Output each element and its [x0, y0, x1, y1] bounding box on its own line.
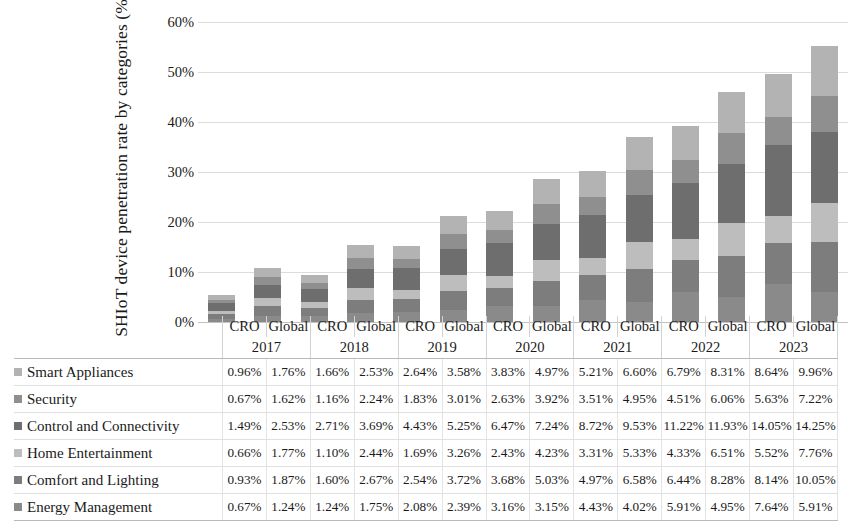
table-row: Smart Appliances0.96%1.76%1.66%2.53%2.64…: [14, 359, 838, 386]
table-cell-value: 4.33%: [662, 440, 706, 467]
stacked-bar[interactable]: [718, 92, 745, 322]
plot-area: [198, 22, 848, 322]
bar-segment: [718, 223, 745, 256]
table-cell-value: 4.97%: [530, 359, 574, 386]
y-axis-title: SHIoT device penetration rate by categor…: [86, 0, 158, 330]
table-cell-value: 4.23%: [530, 440, 574, 467]
table-cell-value: 3.16%: [486, 494, 530, 521]
legend-item[interactable]: Energy Management: [14, 494, 223, 521]
table-row: Home Entertainment0.66%1.77%1.10%2.44%1.…: [14, 440, 838, 467]
table-cell-value: 1.24%: [310, 494, 354, 521]
table-cell-value: 1.49%: [223, 413, 267, 440]
bar-segment: [393, 290, 420, 298]
table-cell-value: 0.67%: [223, 494, 267, 521]
stacked-bar[interactable]: [347, 245, 374, 322]
column-header-region: Global: [266, 316, 310, 337]
stacked-bar[interactable]: [533, 179, 560, 322]
bar-groups: [198, 22, 848, 322]
bar-segment: [486, 230, 513, 243]
table-cell-value: 1.62%: [266, 386, 310, 413]
bar-segment: [811, 96, 838, 132]
table-cell-value: 8.31%: [706, 359, 750, 386]
table-cell-value: 8.14%: [750, 467, 794, 494]
table-cell-value: 4.97%: [574, 467, 618, 494]
bar-segment: [486, 276, 513, 288]
bar-segment: [765, 74, 792, 117]
table-corner-blank-2: [14, 337, 223, 359]
legend-item[interactable]: Home Entertainment: [14, 440, 223, 467]
table-corner-blank: [14, 316, 223, 337]
stacked-bar[interactable]: [672, 126, 699, 322]
table-cell-value: 8.72%: [574, 413, 618, 440]
legend-item[interactable]: Comfort and Lighting: [14, 467, 223, 494]
stacked-bar[interactable]: [486, 211, 513, 322]
table-cell-value: 2.44%: [354, 440, 398, 467]
bar-segment: [626, 170, 653, 195]
bar-segment: [393, 299, 420, 312]
table-cell-value: 2.67%: [354, 467, 398, 494]
bar-segment: [486, 211, 513, 230]
bar-segment: [533, 260, 560, 281]
y-axis-tick-label: 10%: [167, 264, 194, 281]
bar-group-2020: [477, 22, 570, 322]
table-cell-value: 9.96%: [793, 359, 837, 386]
table-cell-value: 3.69%: [354, 413, 398, 440]
bar-segment: [626, 269, 653, 302]
table-cell-value: 4.95%: [706, 494, 750, 521]
table-cell-value: 2.71%: [310, 413, 354, 440]
stacked-bar[interactable]: [811, 46, 838, 322]
stacked-bar[interactable]: [254, 268, 281, 322]
chart-area: SHIoT device penetration rate by categor…: [0, 0, 852, 352]
table-cell-value: 4.02%: [618, 494, 662, 521]
table-cell-value: 6.79%: [662, 359, 706, 386]
table-cell-value: 3.31%: [574, 440, 618, 467]
bar-segment: [254, 298, 281, 307]
bar-group-2022: [662, 22, 755, 322]
bar-segment: [626, 195, 653, 243]
bar-segment: [347, 300, 374, 313]
table-header-region-row: CROGlobalCROGlobalCROGlobalCROGlobalCROG…: [14, 316, 838, 337]
stacked-bar[interactable]: [440, 216, 467, 322]
stacked-bar[interactable]: [393, 246, 420, 322]
bar-segment: [765, 243, 792, 284]
bar-segment: [347, 245, 374, 258]
legend-item[interactable]: Control and Connectivity: [14, 413, 223, 440]
table-cell-value: 3.01%: [442, 386, 486, 413]
bar-segment: [811, 132, 838, 203]
table-cell-value: 7.24%: [530, 413, 574, 440]
bar-segment: [393, 268, 420, 290]
table-head: CROGlobalCROGlobalCROGlobalCROGlobalCROG…: [14, 316, 838, 359]
column-header-region: CRO: [310, 316, 354, 337]
legend-item[interactable]: Security: [14, 386, 223, 413]
bar-segment: [533, 224, 560, 260]
bar-segment: [765, 117, 792, 145]
table-cell-value: 2.64%: [398, 359, 442, 386]
table-cell-value: 11.22%: [662, 413, 706, 440]
table-cell-value: 7.64%: [750, 494, 794, 521]
legend-item[interactable]: Smart Appliances: [14, 359, 223, 386]
table-cell-value: 5.63%: [750, 386, 794, 413]
column-header-region: CRO: [574, 316, 618, 337]
column-header-region: CRO: [662, 316, 706, 337]
table-cell-value: 4.51%: [662, 386, 706, 413]
table-body: Smart Appliances0.96%1.76%1.66%2.53%2.64…: [14, 359, 838, 521]
bar-segment: [393, 246, 420, 259]
table-cell-value: 0.96%: [223, 359, 267, 386]
stacked-bar[interactable]: [301, 275, 328, 322]
table-cell-value: 5.33%: [618, 440, 662, 467]
stacked-bar[interactable]: [626, 137, 653, 322]
legend-item-label: Security: [27, 391, 77, 407]
table-cell-value: 1.75%: [354, 494, 398, 521]
bar-segment: [301, 308, 328, 316]
bar-segment: [626, 137, 653, 170]
stacked-bar[interactable]: [765, 74, 792, 322]
bar-segment: [486, 288, 513, 306]
bar-segment: [301, 289, 328, 303]
table-cell-value: 9.53%: [618, 413, 662, 440]
stacked-bar[interactable]: [579, 171, 606, 322]
chart-page: SHIoT device penetration rate by categor…: [0, 0, 852, 532]
column-header-region: Global: [530, 316, 574, 337]
legend-item-label: Home Entertainment: [27, 445, 152, 461]
legend-swatch-icon: [14, 422, 22, 430]
table-cell-value: 6.06%: [706, 386, 750, 413]
